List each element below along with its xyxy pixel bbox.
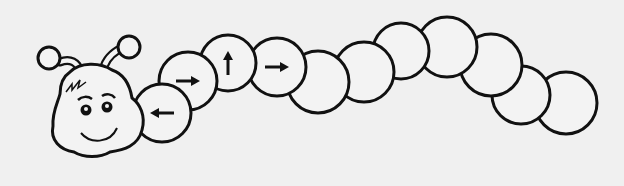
caterpillar-illustration (0, 0, 624, 186)
antenna-ball-right (118, 36, 140, 58)
antenna-ball-left (38, 47, 60, 69)
caterpillar-head (38, 36, 143, 157)
caterpillar-drawing (0, 0, 624, 186)
body-segments (133, 17, 597, 142)
head-outline (52, 64, 143, 156)
